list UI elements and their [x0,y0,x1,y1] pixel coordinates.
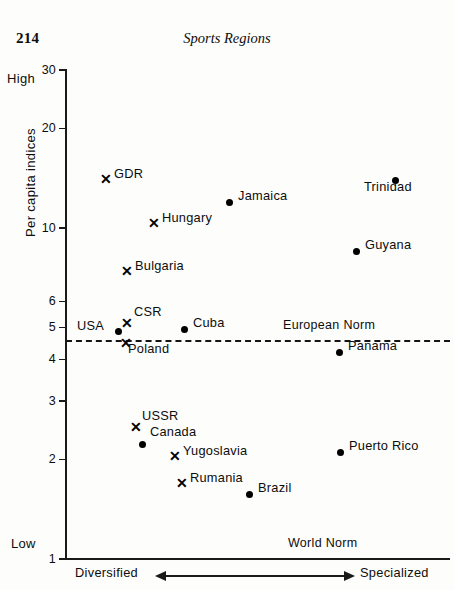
data-point-label: Poland [128,343,169,356]
y-tick-label: 2 [30,453,56,466]
x-axis-left-caption: Diversified [75,565,138,580]
filled-circle-marker-icon [226,199,233,206]
filled-circle-marker-icon [115,328,122,335]
data-point-label: Bulgaria [135,260,184,273]
data-point-label: Yugoslavia [183,445,247,458]
y-tick-label: 5 [30,321,56,334]
y-axis-line [65,69,67,560]
arrow-head-right-icon [344,571,355,581]
x-cross-marker-icon: ✕ [176,477,187,490]
filled-circle-marker-icon [336,349,343,356]
x-axis-right-caption: Specialized [360,565,429,580]
filled-circle-marker-icon [181,326,188,333]
arrow-head-left-icon [155,571,166,581]
x-cross-marker-icon: ✕ [169,450,180,463]
data-point-label: Rumania [190,472,243,485]
data-point-label: Puerto Rico [349,440,419,453]
y-tick-mark [59,128,66,129]
y-tick-mark [59,558,66,559]
y-tick-mark [59,459,66,460]
y-tick-mark [59,359,66,360]
data-point-label: Trinidad [364,181,412,194]
data-point-label: GDR [114,168,143,181]
filled-circle-marker-icon [246,491,253,498]
european-norm-label: European Norm [283,318,375,332]
data-point-label: Hungary [162,212,212,225]
arrow-shaft [163,575,347,576]
y-tick-mark [59,69,66,70]
y-tick-mark [59,227,66,228]
y-tick-mark [59,327,66,328]
x-cross-marker-icon: ✕ [100,173,111,186]
filled-circle-marker-icon [337,449,344,456]
y-tick-mark [59,301,66,302]
x-cross-marker-icon: ✕ [130,421,141,434]
data-point-label: Panama [348,340,397,353]
data-point-label: Jamaica [238,190,287,203]
y-tick-label: 10 [30,222,56,235]
y-tick-label: 3 [30,395,56,408]
world-norm-label: World Norm [288,536,357,550]
figure-page: 214 Sports Regions Per capita indices Hi… [0,0,454,590]
x-cross-marker-icon: ✕ [148,217,159,230]
y-tick-label: 20 [30,122,56,135]
y-tick-label: 30 [30,64,56,77]
data-point-label: USA [77,320,104,333]
running-head: Sports Regions [0,30,454,47]
y-axis-low-caption: Low [11,536,36,551]
filled-circle-marker-icon [353,248,360,255]
data-point-label: USSR [142,410,179,423]
x-cross-marker-icon: ✕ [121,317,132,330]
data-point-label: CSR [134,306,162,319]
y-tick-mark [59,400,66,401]
y-tick-label: 6 [30,295,56,308]
data-point-label: Brazil [258,482,292,495]
data-point-label: Cuba [193,317,225,330]
direction-double-arrow [155,571,355,581]
data-point-label: Canada [150,426,196,439]
y-tick-label: 4 [30,353,56,366]
x-axis-line [65,558,450,560]
filled-circle-marker-icon [139,441,146,448]
data-point-label: Guyana [365,239,411,252]
x-cross-marker-icon: ✕ [121,265,132,278]
y-tick-label: 1 [30,553,56,566]
